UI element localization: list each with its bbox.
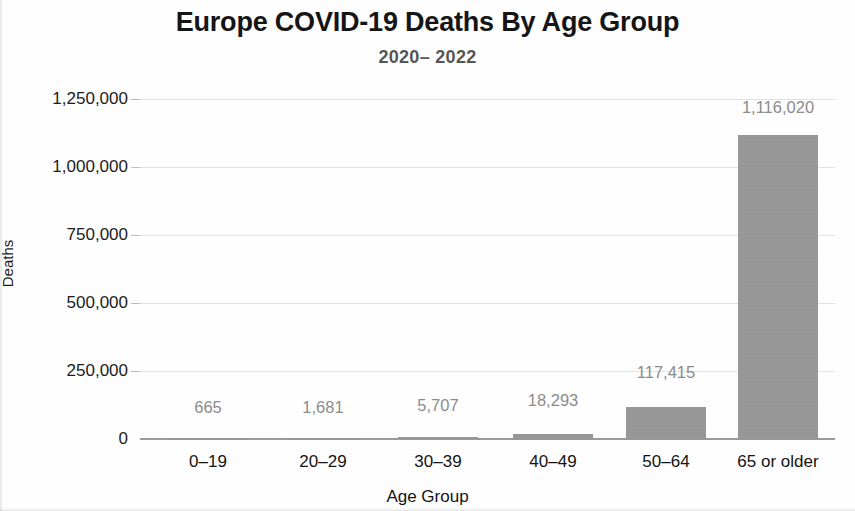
bar-20-29[interactable]	[283, 438, 363, 439]
y-tick-label: 750,000	[0, 225, 128, 245]
x-tick-label-20-29: 20–29	[299, 452, 346, 472]
bar-value-label: 18,293	[528, 391, 578, 410]
y-tick-label: 500,000	[0, 293, 128, 313]
x-tick-label-50-64: 50–64	[642, 452, 689, 472]
plot-area: 665 1,681 5,707 18,293 117,415 1,116,020	[140, 99, 835, 439]
y-tick-label: 250,000	[0, 361, 128, 381]
gridline	[140, 167, 835, 168]
y-tick-mark	[131, 167, 140, 168]
bar-value-label: 665	[194, 398, 222, 417]
x-tick-label-65-or-older: 65 or older	[737, 452, 818, 472]
bar-value-label: 1,116,020	[742, 98, 814, 117]
bar-0-19[interactable]	[168, 438, 248, 439]
y-tick-mark	[131, 99, 140, 100]
y-tick-mark	[131, 235, 140, 236]
chart-subtitle: 2020– 2022	[0, 46, 855, 68]
bar-50-64[interactable]	[626, 407, 706, 439]
gridline	[140, 99, 835, 100]
gridline	[140, 235, 835, 236]
bar-chart: Europe COVID-19 Deaths By Age Group 2020…	[0, 0, 855, 511]
y-tick-label: 0	[0, 429, 128, 449]
chart-title: Europe COVID-19 Deaths By Age Group	[0, 6, 855, 38]
bar-value-label: 5,707	[417, 396, 458, 415]
gridline	[140, 303, 835, 304]
bar-40-49[interactable]	[513, 434, 593, 439]
x-tick-label-0-19: 0–19	[189, 452, 227, 472]
bar-value-label: 117,415	[637, 363, 695, 382]
x-tick-label-30-39: 30–39	[414, 452, 461, 472]
bar-30-39[interactable]	[398, 437, 478, 439]
x-tick-label-40-49: 40–49	[529, 452, 576, 472]
y-tick-label: 1,000,000	[0, 157, 128, 177]
y-tick-mark	[131, 371, 140, 372]
y-tick-mark	[131, 303, 140, 304]
bar-value-label: 1,681	[302, 398, 343, 417]
gridline	[140, 371, 835, 372]
y-tick-label: 1,250,000	[0, 89, 128, 109]
bar-65-or-older[interactable]	[738, 135, 818, 439]
x-axis-label: Age Group	[0, 487, 855, 507]
y-axis-tick-labels: 1,250,000 1,000,000 750,000 500,000 250,…	[0, 99, 128, 439]
